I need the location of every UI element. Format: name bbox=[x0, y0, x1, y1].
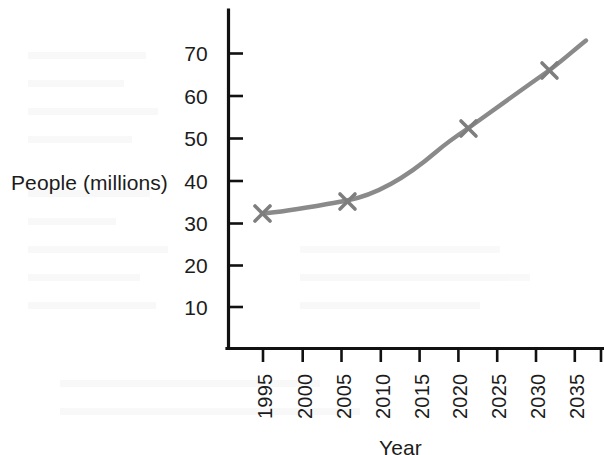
data-markers bbox=[255, 63, 557, 221]
x-tick-label-2025: 2025 bbox=[489, 374, 509, 419]
y-tick-label-10: 10 bbox=[148, 297, 208, 318]
x-axis-ticks bbox=[263, 349, 601, 363]
y-tick-label-70: 70 bbox=[148, 43, 208, 64]
x-tick-label-2015: 2015 bbox=[412, 374, 432, 419]
data-line-people-millions bbox=[262, 41, 586, 214]
x-tick-label-2030: 2030 bbox=[528, 374, 548, 419]
x-tick-label-2035: 2035 bbox=[567, 374, 587, 419]
y-tick-label-30: 30 bbox=[148, 213, 208, 234]
y-tick-label-60: 60 bbox=[148, 86, 208, 107]
line-chart-figure: 70 60 50 40 30 20 10 1995 2000 2005 2010… bbox=[0, 0, 604, 455]
x-tick-label-2005: 2005 bbox=[334, 374, 354, 419]
x-tick-label-2000: 2000 bbox=[295, 374, 315, 419]
x-tick-label-2020: 2020 bbox=[450, 374, 470, 419]
x-axis-title: Year bbox=[379, 437, 422, 455]
y-tick-label-20: 20 bbox=[148, 255, 208, 276]
x-tick-label-1995: 1995 bbox=[255, 374, 275, 419]
data-point-2030 bbox=[542, 63, 557, 78]
y-axis-ticks bbox=[229, 54, 244, 308]
x-tick-label-2010: 2010 bbox=[373, 374, 393, 419]
y-axis-title: People (millions) bbox=[11, 172, 168, 193]
y-tick-label-50: 50 bbox=[148, 128, 208, 149]
data-point-2020 bbox=[461, 121, 476, 136]
